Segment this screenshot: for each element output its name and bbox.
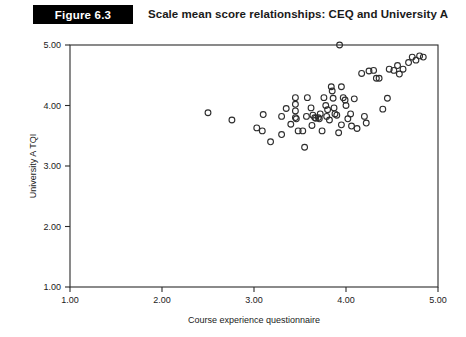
data-point	[359, 71, 365, 77]
data-point	[293, 108, 299, 114]
data-point	[304, 95, 310, 101]
data-point	[254, 125, 260, 131]
x-tick-label: 2.00	[153, 295, 171, 305]
figure-number-badge: Figure 6.3	[33, 5, 133, 24]
x-tick-label: 1.00	[61, 295, 79, 305]
data-point	[302, 144, 308, 150]
y-axis-title: University A TQI	[28, 134, 38, 198]
data-point	[279, 113, 285, 119]
y-tick-label: 5.00	[43, 40, 61, 50]
data-point	[331, 105, 337, 111]
data-point	[420, 54, 426, 60]
data-point	[339, 122, 345, 128]
x-axis-ticks: 1.002.003.004.005.00	[61, 287, 447, 305]
y-tick-label: 1.00	[43, 282, 61, 292]
x-tick-label: 3.00	[245, 295, 263, 305]
data-point	[259, 128, 265, 134]
data-point	[363, 120, 369, 126]
x-tick-label: 5.00	[429, 295, 447, 305]
data-point	[293, 95, 299, 101]
data-point	[283, 106, 289, 112]
y-tick-label: 2.00	[43, 222, 61, 232]
data-point	[400, 66, 406, 72]
figure-title: Scale mean score relationships: CEQ and …	[148, 6, 448, 23]
data-point	[319, 128, 325, 134]
data-point	[229, 117, 235, 123]
data-point	[293, 101, 299, 107]
figure-header: Figure 6.3 Scale mean score relationship…	[0, 0, 466, 34]
data-point	[309, 123, 315, 129]
data-point	[380, 106, 386, 112]
x-tick-label: 4.00	[337, 295, 355, 305]
data-point	[268, 139, 274, 145]
data-point	[395, 63, 401, 69]
data-point	[260, 112, 266, 118]
data-point	[336, 130, 342, 136]
data-point	[351, 96, 357, 102]
y-tick-label: 4.00	[43, 101, 61, 111]
data-point	[349, 123, 355, 129]
data-point	[321, 95, 327, 101]
data-point	[354, 126, 360, 132]
y-axis-ticks: 1.002.003.004.005.00	[43, 40, 70, 292]
data-point	[288, 121, 294, 127]
scatter-chart: 1.002.003.004.005.00 1.002.003.004.005.0…	[0, 34, 466, 337]
data-point	[406, 60, 412, 66]
data-point	[409, 54, 415, 60]
data-point	[279, 132, 285, 138]
data-point-group	[205, 42, 426, 150]
data-point	[205, 110, 211, 116]
plot-frame	[70, 45, 438, 287]
y-tick-label: 3.00	[43, 161, 61, 171]
data-point	[362, 113, 368, 119]
data-point	[334, 112, 340, 118]
data-point	[308, 105, 314, 111]
x-axis-title: Course experience questionnaire	[188, 315, 320, 325]
data-point	[343, 103, 349, 109]
chart-canvas: 1.002.003.004.005.00 1.002.003.004.005.0…	[0, 34, 466, 337]
data-point	[339, 84, 345, 90]
data-point	[304, 113, 310, 119]
data-point	[385, 95, 391, 101]
data-point	[330, 95, 336, 101]
data-point	[417, 53, 423, 59]
data-point	[348, 111, 354, 117]
